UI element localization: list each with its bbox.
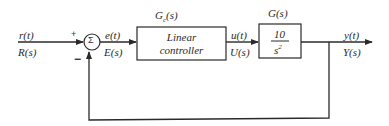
plant-transfer-label: G(s)	[268, 8, 288, 19]
plus-sign: +	[71, 30, 76, 39]
controller-line1: Linear	[137, 31, 226, 44]
block-diagram-canvas	[0, 0, 389, 126]
input-time-label: r(t)	[19, 30, 34, 41]
controller-transfer-label: Gc(s)	[155, 10, 178, 24]
controller-text: Linear controller	[137, 31, 226, 57]
input-laplace-label: R(s)	[18, 47, 36, 58]
controller-line2: controller	[137, 44, 226, 57]
error-laplace-label: E(s)	[104, 47, 122, 58]
controller-transfer-arg: (s)	[166, 9, 178, 21]
sigma-icon: Σ	[88, 36, 94, 45]
output-laplace-label: Y(s)	[343, 47, 361, 58]
plant-numerator: 10	[274, 29, 285, 40]
plant-denominator-exp: 2	[278, 43, 282, 51]
plant-denominator: s2	[274, 44, 282, 56]
error-time-label: e(t)	[105, 30, 120, 41]
control-time-label: u(t)	[231, 30, 247, 41]
control-laplace-label: U(s)	[230, 47, 250, 58]
output-time-label: y(t)	[344, 30, 359, 41]
minus-sign: −	[74, 53, 81, 65]
controller-transfer-base: G	[155, 9, 163, 21]
